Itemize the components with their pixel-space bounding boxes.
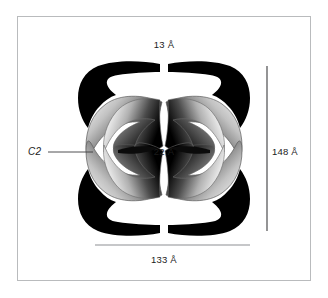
dimension-label-width: 133 Å	[0, 254, 328, 265]
symmetry-axis-label: C2	[28, 146, 41, 157]
dimension-label-height: 148 Å	[272, 146, 298, 157]
dimension-label-top: 13 Å	[0, 39, 328, 50]
figure-root: 13 Å 22 Å 148 Å 133 Å C2	[0, 0, 328, 298]
